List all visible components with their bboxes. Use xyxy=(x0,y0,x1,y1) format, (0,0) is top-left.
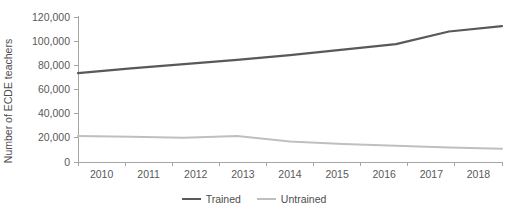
chart-legend: Trained Untrained xyxy=(0,190,508,208)
plot-area: 020,00040,00060,00080,000100,000120,000 … xyxy=(0,0,508,210)
series-line-untrained xyxy=(78,136,502,149)
legend-item-trained: Trained xyxy=(182,192,241,206)
x-tick-label: 2017 xyxy=(420,168,444,180)
x-axis-tick-marks xyxy=(78,162,502,166)
x-tick-label: 2013 xyxy=(231,168,255,180)
legend-label-trained: Trained xyxy=(206,192,241,206)
legend-swatch-trained xyxy=(182,198,201,200)
y-axis-tick-marks xyxy=(74,17,78,162)
y-tick-label: 60,000 xyxy=(38,83,70,95)
line-chart: Number of ECDE teachers 020,00040,00060,… xyxy=(0,0,508,210)
y-tick-label: 80,000 xyxy=(38,59,70,71)
y-axis-tick-labels: 020,00040,00060,00080,000100,000120,000 xyxy=(32,11,70,168)
legend-item-untrained: Untrained xyxy=(257,192,327,206)
x-tick-label: 2010 xyxy=(90,168,114,180)
y-tick-label: 20,000 xyxy=(38,131,70,143)
series-line-trained xyxy=(78,26,502,73)
x-axis-tick-labels: 201020112012201320142015201620172018 xyxy=(90,168,490,180)
x-tick-label: 2011 xyxy=(137,168,160,180)
x-tick-label: 2015 xyxy=(325,168,349,180)
legend-swatch-untrained xyxy=(257,198,276,200)
y-tick-label: 120,000 xyxy=(32,11,70,23)
y-tick-label: 40,000 xyxy=(38,107,70,119)
x-tick-label: 2014 xyxy=(278,168,302,180)
legend-label-untrained: Untrained xyxy=(281,192,327,206)
y-tick-label: 100,000 xyxy=(32,35,70,47)
x-tick-label: 2018 xyxy=(467,168,491,180)
y-tick-label: 0 xyxy=(64,156,70,168)
series-lines xyxy=(78,26,502,149)
x-tick-label: 2012 xyxy=(184,168,208,180)
x-tick-label: 2016 xyxy=(373,168,397,180)
